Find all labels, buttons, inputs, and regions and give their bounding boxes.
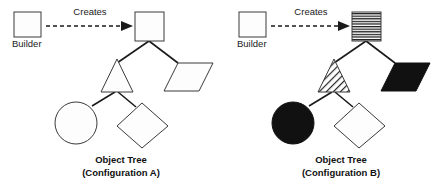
node-circle-b	[272, 102, 314, 144]
object-tree-diagram: Builder Creates Object Tree (Configurati…	[0, 0, 447, 188]
diagram-canvas: Builder Creates Object Tree (Configurati…	[0, 0, 447, 188]
node-root-square-b	[352, 12, 381, 41]
node-root-square-a	[135, 12, 164, 41]
builder-box-b	[239, 12, 266, 37]
builder-label-a: Builder	[12, 38, 42, 49]
caption-b-line1: Object Tree	[315, 154, 367, 165]
creates-label-a: Creates	[73, 6, 107, 17]
caption-b-line2: (Configuration B)	[302, 167, 380, 178]
caption-a-line2: (Configuration A)	[82, 167, 160, 178]
caption-a-line1: Object Tree	[95, 154, 147, 165]
creates-label-b: Creates	[294, 6, 328, 17]
builder-label-b: Builder	[237, 38, 267, 49]
node-circle-a	[55, 102, 97, 144]
builder-box-a	[14, 12, 41, 37]
